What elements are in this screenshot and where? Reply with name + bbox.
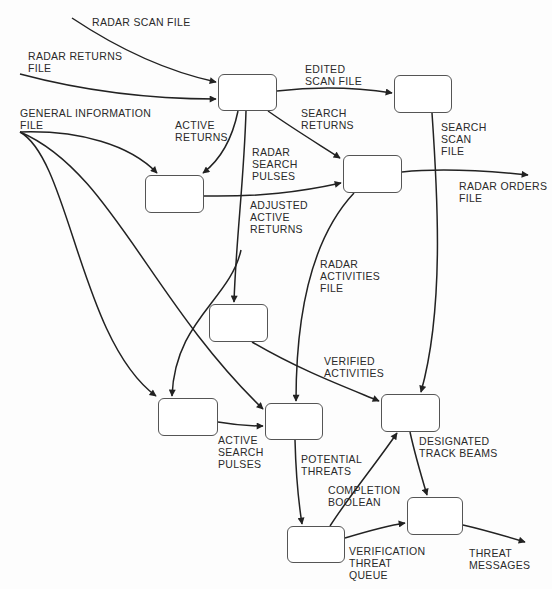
flow-active-search-pulses <box>218 422 263 426</box>
label-threat-messages: THREAT MESSAGES <box>469 547 530 571</box>
label-adjusted-active-returns: ADJUSTED ACTIVE RETURNS <box>250 199 308 235</box>
label-designated-track-beams: DESIGNATED TRACK BEAMS <box>419 435 498 459</box>
label-radar-returns-file: RADAR RETURNS FILE <box>28 50 122 74</box>
label-search-scan-file: SEARCH SCAN FILE <box>441 121 487 157</box>
label-verification-threat-queue: VERIFICATION THREAT QUEUE <box>349 545 425 581</box>
label-active-returns: ACTIVE RETURNS <box>175 119 228 143</box>
process-box-8[interactable] <box>381 394 440 432</box>
label-search-returns: SEARCH RETURNS <box>301 107 354 131</box>
flow-radar-returns-file <box>20 74 216 99</box>
process-box-7[interactable] <box>265 403 323 440</box>
flow-threat-messages <box>463 525 525 542</box>
label-verified-activities: VERIFIED ACTIVITIES <box>324 355 384 379</box>
process-box-5[interactable] <box>209 304 268 342</box>
flow-adjusted-active-returns <box>204 183 341 196</box>
process-box-6[interactable] <box>158 398 218 436</box>
label-radar-scan-file: RADAR SCAN FILE <box>92 16 190 28</box>
label-radar-search-pulses: RADAR SEARCH PULSES <box>252 146 298 182</box>
process-box-4[interactable] <box>343 155 402 193</box>
label-radar-orders-file: RADAR ORDERS FILE <box>459 180 547 204</box>
flow-edited-scan-file <box>277 88 392 93</box>
process-box-10[interactable] <box>287 526 345 563</box>
flow-general-info-to-p6 <box>20 132 156 396</box>
flow-radar-orders-file <box>402 170 528 175</box>
flow-completion-boolean <box>330 433 397 526</box>
label-general-information-file: GENERAL INFORMATION FILE <box>20 107 151 131</box>
process-box-9[interactable] <box>407 497 463 535</box>
label-potential-threats: POTENTIAL THREATS <box>301 453 362 477</box>
flow-search-scan-file <box>421 113 437 392</box>
process-box-2[interactable] <box>394 75 452 113</box>
label-radar-activities-file: RADAR ACTIVITIES FILE <box>320 258 380 294</box>
flow-general-info-to-p7 <box>20 132 263 409</box>
process-box-1[interactable] <box>218 74 277 111</box>
label-active-search-pulses: ACTIVE SEARCH PULSES <box>218 434 264 470</box>
label-completion-boolean: COMPLETION BOOLEAN <box>328 484 400 508</box>
flow-general-info-to-p3 <box>20 132 157 173</box>
flow-radar-search-pulses <box>234 111 246 302</box>
data-flow-diagram: RADAR SCAN FILE RADAR RETURNS FILE GENER… <box>0 0 552 589</box>
label-edited-scan-file: EDITED SCAN FILE <box>305 63 362 87</box>
flow-verification-threat-queue <box>345 523 405 538</box>
process-box-3[interactable] <box>145 175 204 213</box>
